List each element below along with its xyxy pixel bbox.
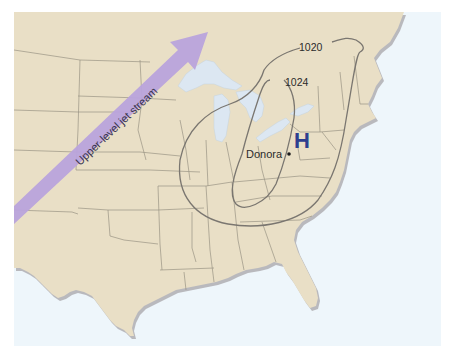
city-label: Donora xyxy=(246,148,283,160)
isobar-label-1020: 1020 xyxy=(299,41,323,53)
city-marker-icon xyxy=(287,152,291,156)
high-pressure-symbol: H xyxy=(294,128,310,153)
weather-map: Upper-level jet stream 1020 1024 H Donor… xyxy=(0,0,454,358)
isobar-label-1024: 1024 xyxy=(285,76,309,88)
